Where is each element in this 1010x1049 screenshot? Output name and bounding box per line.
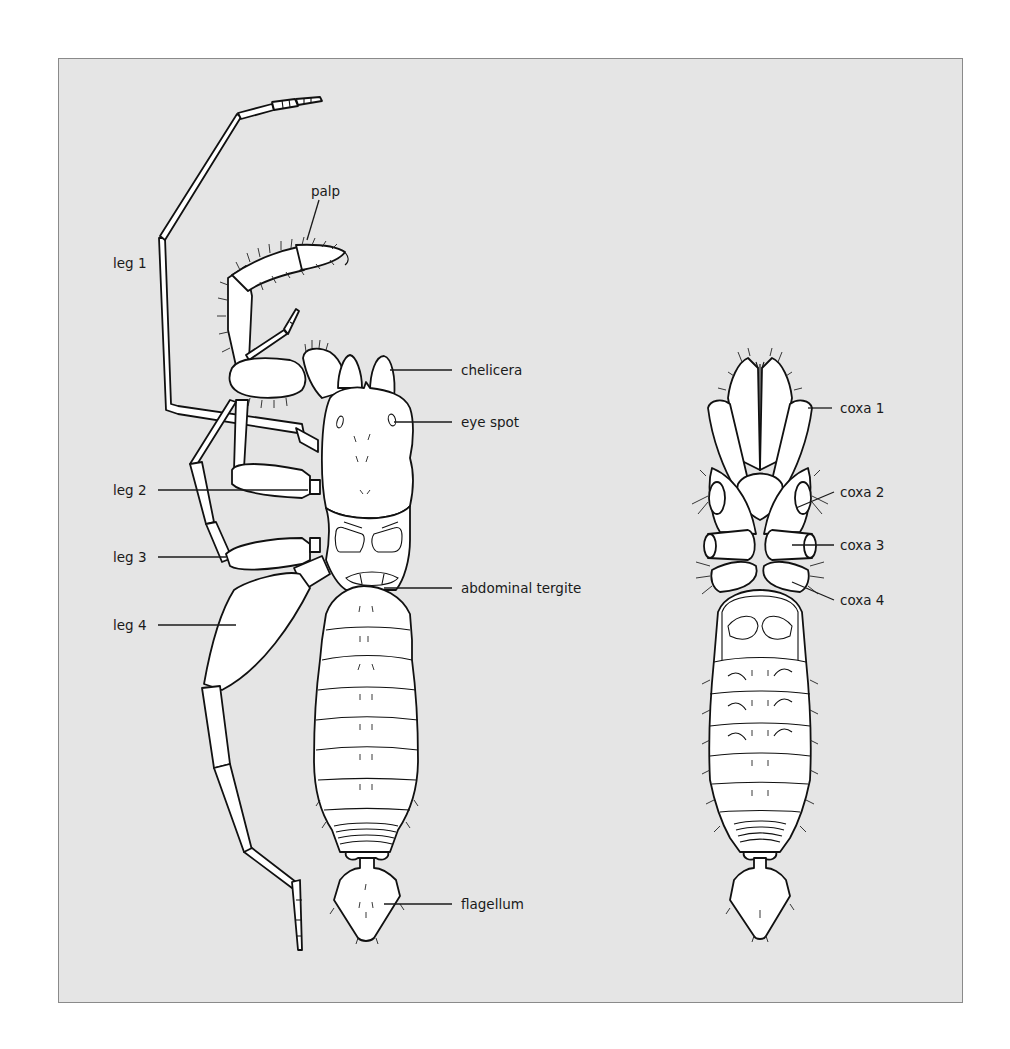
label-leg-3: leg 3 [113, 549, 147, 565]
label-coxa-3: coxa 3 [840, 537, 884, 553]
coxa-4-right [763, 562, 808, 592]
label-leg-2: leg 2 [113, 482, 147, 498]
label-eye-spot: eye spot [461, 414, 519, 430]
palp [217, 237, 348, 366]
label-abdominal-tergite: abdominal tergite [461, 580, 581, 596]
anatomy-illustration: palp leg 1 leg 2 leg 3 leg 4 chelicera e… [0, 0, 1010, 1049]
dorsal-body [314, 355, 418, 944]
label-chelicera: chelicera [461, 362, 522, 378]
label-coxa-2: coxa 2 [840, 484, 884, 500]
leg-2 [232, 400, 320, 498]
label-flagellum: flagellum [461, 896, 524, 912]
chelicera-left [338, 355, 362, 388]
dorsal-view: palp leg 1 leg 2 leg 3 leg 4 chelicera e… [113, 97, 581, 950]
leg-2-distal [246, 309, 299, 360]
label-leg-1: leg 1 [113, 255, 147, 271]
label-coxa-4: coxa 4 [840, 592, 884, 608]
ventral-view: coxa 1 coxa 2 coxa 3 coxa 4 [692, 348, 884, 942]
label-coxa-1: coxa 1 [840, 400, 884, 416]
leg-4 [202, 556, 330, 950]
label-palp: palp [311, 183, 340, 199]
flagellum-shape [334, 858, 400, 941]
label-leg-4: leg 4 [113, 617, 147, 633]
carapace [322, 382, 413, 518]
